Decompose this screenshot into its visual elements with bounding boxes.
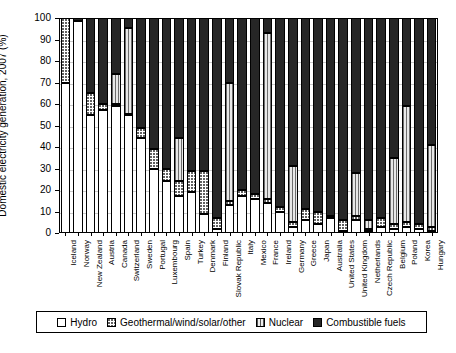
x-tick-label: Hungary xyxy=(436,240,445,270)
bar-segment-comb xyxy=(73,18,83,21)
stacked-bar xyxy=(174,18,184,233)
x-tick-mark xyxy=(318,233,319,236)
stacked-bar xyxy=(301,18,311,233)
bar-segment-comb xyxy=(111,18,121,74)
x-tick-mark xyxy=(179,233,180,236)
x-tick-label: Norway xyxy=(82,240,91,267)
y-tick-label: 20 xyxy=(40,185,51,195)
stacked-bar xyxy=(124,18,134,233)
stacked-bar xyxy=(98,18,108,233)
bar-segment-nuc xyxy=(225,83,235,201)
stacked-bar xyxy=(364,18,374,233)
x-tick-label: Germany xyxy=(297,240,306,273)
bar-segment-nuc xyxy=(427,145,437,227)
x-tick-label: New Zealand xyxy=(95,240,104,287)
y-tick-mark xyxy=(55,233,59,234)
x-tick-mark xyxy=(217,233,218,236)
y-tick-label: 40 xyxy=(40,142,51,152)
legend-swatch-geo-icon xyxy=(107,318,116,327)
x-tick-label: Poland xyxy=(410,240,419,265)
bar-segment-geo xyxy=(136,128,146,139)
stacked-bar xyxy=(288,18,298,233)
bar-segment-comb xyxy=(389,18,399,158)
x-tick-label: Finland xyxy=(221,240,230,266)
y-tick-label: 10 xyxy=(40,207,51,217)
x-tick-label: United Kingdom xyxy=(360,240,369,297)
legend-item-hydro: Hydro xyxy=(57,317,97,328)
x-tick-label: Korea xyxy=(423,240,432,261)
y-axis-tick-labels: 0102030405060708090100 xyxy=(0,0,59,233)
bar-segment-comb xyxy=(364,18,374,220)
stacked-bar xyxy=(263,18,273,233)
bar-segment-comb xyxy=(427,18,437,145)
bar-segment-geo xyxy=(250,194,260,198)
bar-segment-comb xyxy=(275,18,285,207)
legend-swatch-nuc-icon xyxy=(256,318,265,327)
bar-segment-geo xyxy=(61,18,71,83)
stacked-bar xyxy=(199,18,209,233)
bar-segment-hydro xyxy=(73,21,83,233)
bar-segment-hydro xyxy=(187,192,197,233)
bar-segment-hydro xyxy=(111,106,121,233)
stacked-bar xyxy=(73,18,83,233)
bar-segment-geo xyxy=(338,220,348,231)
x-tick-label: Japan xyxy=(322,240,331,262)
x-tick-label: Iceland xyxy=(69,240,78,266)
bar-segment-geo xyxy=(351,216,361,220)
chart-legend: HydroGeothermal/wind/solar/otherNuclearC… xyxy=(36,311,427,333)
bar-series-container xyxy=(59,18,438,233)
x-tick-mark xyxy=(230,233,231,236)
legend-swatch-comb-icon xyxy=(313,318,322,327)
bar-segment-hydro xyxy=(149,169,159,234)
x-tick-mark xyxy=(369,233,370,236)
x-tick-mark xyxy=(154,233,155,236)
x-tick-mark xyxy=(242,233,243,236)
bar-segment-comb xyxy=(402,18,412,106)
bar-segment-nuc xyxy=(402,106,412,222)
x-tick-label: Turkey xyxy=(196,240,205,264)
stacked-bar xyxy=(136,18,146,233)
x-tick-label: Australia xyxy=(335,240,344,271)
x-tick-label: Denmark xyxy=(208,240,217,272)
bar-segment-geo xyxy=(149,149,159,168)
bar-segment-geo xyxy=(414,224,424,228)
x-tick-label: Mexico xyxy=(259,240,268,265)
bar-segment-geo xyxy=(263,199,273,203)
bar-segment-geo xyxy=(376,218,386,227)
x-tick-label: Luxembourg xyxy=(170,240,179,284)
stacked-bar xyxy=(149,18,159,233)
bar-segment-hydro xyxy=(326,218,336,233)
bar-segment-comb xyxy=(288,18,298,166)
stacked-bar xyxy=(427,18,437,233)
x-tick-mark xyxy=(381,233,382,236)
bar-segment-hydro xyxy=(136,138,146,233)
x-tick-label: United States xyxy=(347,240,356,288)
chart-root: Domestic electricity generation, 2007 (%… xyxy=(0,0,456,353)
x-tick-label: France xyxy=(271,240,280,265)
bar-segment-comb xyxy=(326,18,336,216)
stacked-bar xyxy=(61,18,71,233)
bar-segment-comb xyxy=(351,18,361,173)
stacked-bar xyxy=(414,18,424,233)
x-tick-mark xyxy=(65,233,66,236)
legend-item-geo: Geothermal/wind/solar/other xyxy=(107,317,246,328)
bar-segment-hydro xyxy=(351,220,361,233)
bar-segment-nuc xyxy=(124,28,134,114)
bar-segment-geo xyxy=(174,181,184,196)
y-tick-label: 80 xyxy=(40,56,51,66)
x-tick-mark xyxy=(204,233,205,236)
x-tick-label: Ireland xyxy=(284,240,293,264)
bar-segment-hydro xyxy=(275,212,285,234)
stacked-bar xyxy=(338,18,348,233)
x-tick-mark xyxy=(305,233,306,236)
stacked-bar xyxy=(376,18,386,233)
bar-segment-comb xyxy=(338,18,348,220)
bar-segment-geo xyxy=(364,229,374,231)
bar-segment-hydro xyxy=(199,214,209,233)
bar-segment-hydro xyxy=(263,203,273,233)
legend-label: Hydro xyxy=(70,317,97,328)
bar-segment-comb xyxy=(199,18,209,171)
x-tick-label: Switzerland xyxy=(132,240,141,281)
bar-segment-comb xyxy=(86,18,96,93)
bar-segment-geo xyxy=(275,207,285,211)
